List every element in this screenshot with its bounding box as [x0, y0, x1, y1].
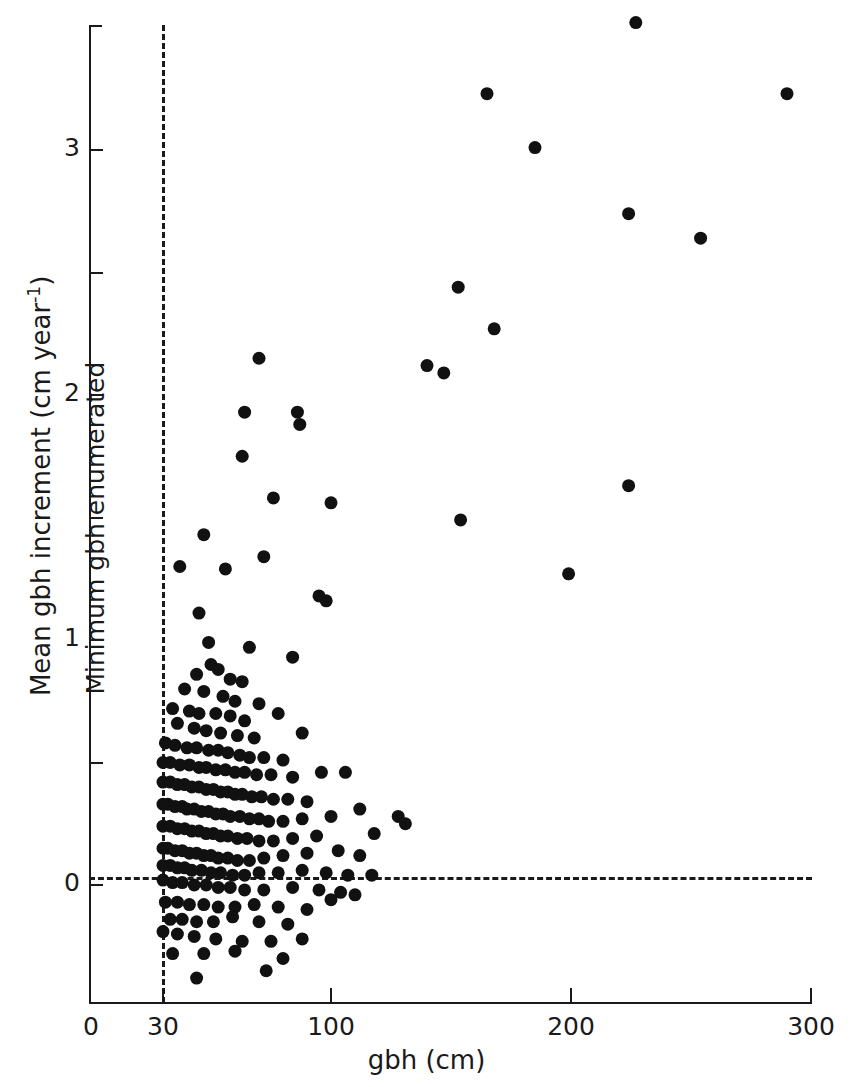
scatter-point [243, 854, 256, 867]
scatter-point [217, 690, 230, 703]
scatter-point [272, 866, 285, 879]
scatter-point [272, 901, 285, 914]
scatter-point [310, 830, 323, 843]
scatter-point [171, 928, 184, 941]
scatter-point [257, 550, 270, 563]
scatter-point [349, 888, 362, 901]
scatter-point [200, 879, 213, 892]
scatter-point [257, 751, 270, 764]
scatter-point [197, 528, 210, 541]
scatter-point [452, 281, 465, 294]
scatter-point [238, 883, 251, 896]
scatter-point [332, 844, 345, 857]
scatter-point [193, 707, 206, 720]
scatter-point [197, 898, 210, 911]
scatter-point [296, 864, 309, 877]
scatter-point [166, 947, 179, 960]
y-axis-title-prefix: Mean gbh increment (cm year [26, 303, 56, 696]
scatter-point [212, 881, 225, 894]
scatter-points-layer [91, 25, 811, 1003]
scatter-point [399, 817, 412, 830]
scatter-point [320, 866, 333, 879]
plot-area [91, 25, 811, 1003]
scatter-point [173, 560, 186, 573]
scatter-point [224, 881, 237, 894]
scatter-point [190, 741, 203, 754]
scatter-point [176, 876, 189, 889]
scatter-point [178, 683, 191, 696]
scatter-point [562, 567, 575, 580]
scatter-point [277, 754, 290, 767]
scatter-point [488, 322, 501, 335]
scatter-point [257, 883, 270, 896]
scatter-point [212, 901, 225, 914]
scatter-point [176, 913, 189, 926]
x-tick-label: 100 [296, 1012, 366, 1041]
scatter-point [169, 739, 182, 752]
scatter-point [421, 359, 434, 372]
scatter-point [265, 935, 278, 948]
scatter-point [353, 803, 366, 816]
scatter-point [277, 849, 290, 862]
scatter-point [353, 849, 366, 862]
scatter-point [694, 232, 707, 245]
scatter-point [159, 896, 172, 909]
scatter-point [481, 87, 494, 100]
scatter-point [253, 352, 266, 365]
scatter-point [214, 727, 227, 740]
scatter-point [250, 768, 263, 781]
scatter-point [368, 827, 381, 840]
scatter-plot-figure: 0123 030100200300 Minimum gbh enumerated… [0, 0, 853, 1087]
scatter-point [229, 695, 242, 708]
scatter-point [255, 790, 268, 803]
scatter-point [325, 810, 338, 823]
x-tick-label: 0 [56, 1012, 126, 1041]
scatter-point [291, 406, 304, 419]
scatter-point [293, 418, 306, 431]
scatter-point [238, 714, 251, 727]
scatter-point [339, 766, 352, 779]
scatter-point [253, 834, 266, 847]
scatter-point [262, 815, 275, 828]
scatter-point [224, 709, 237, 722]
scatter-point [188, 930, 201, 943]
scatter-point [277, 952, 290, 965]
scatter-point [315, 766, 328, 779]
scatter-point [157, 925, 170, 938]
scatter-point [226, 910, 239, 923]
scatter-point [267, 793, 280, 806]
scatter-point [243, 751, 256, 764]
scatter-point [188, 722, 201, 735]
scatter-point [296, 727, 309, 740]
scatter-point [226, 869, 239, 882]
scatter-point [253, 915, 266, 928]
scatter-point [286, 771, 299, 784]
scatter-point [622, 207, 635, 220]
scatter-point [238, 406, 251, 419]
scatter-point [238, 869, 251, 882]
scatter-point [224, 673, 237, 686]
scatter-point [190, 972, 203, 985]
y-tick-label: 0 [40, 868, 80, 897]
scatter-point [529, 141, 542, 154]
scatter-point [209, 707, 222, 720]
scatter-point [238, 766, 251, 779]
scatter-point [629, 16, 642, 29]
y-axis-title-suffix: ) [26, 276, 56, 286]
scatter-point [301, 847, 314, 860]
scatter-point [200, 724, 213, 737]
scatter-point [202, 636, 215, 649]
scatter-point [253, 697, 266, 710]
scatter-point [286, 881, 299, 894]
scatter-point [236, 450, 249, 463]
x-axis-title: gbh (cm) [0, 1045, 853, 1075]
scatter-point [164, 913, 177, 926]
scatter-point [325, 893, 338, 906]
scatter-point [277, 815, 290, 828]
x-tick-label: 300 [776, 1012, 846, 1041]
scatter-point [231, 729, 244, 742]
scatter-point [325, 496, 338, 509]
scatter-point [622, 479, 635, 492]
scatter-point [320, 594, 333, 607]
scatter-point [281, 793, 294, 806]
